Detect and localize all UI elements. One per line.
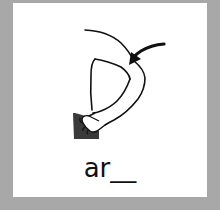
word-prompt: ar__ [13,153,207,183]
forearm-inner-outline [93,79,130,113]
upper-arm-outline [91,59,95,110]
card-frame: ar__ [0,0,220,210]
arrow-icon [129,44,164,65]
word-card: ar__ [13,3,207,197]
shoulder-outline [85,30,134,61]
